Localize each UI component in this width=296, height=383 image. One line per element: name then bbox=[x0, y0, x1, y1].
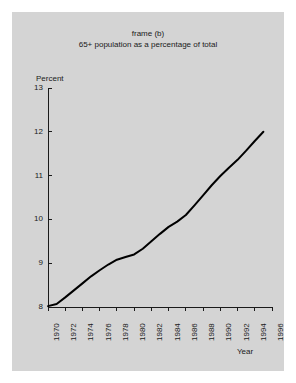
x-tick-label: 1990 bbox=[224, 323, 233, 341]
y-tick-label: 12 bbox=[27, 127, 43, 136]
chart-canvas bbox=[12, 12, 284, 371]
x-tick-label: 1996 bbox=[276, 323, 285, 341]
x-tick-label: 1976 bbox=[104, 323, 113, 341]
x-tick-label: 1980 bbox=[138, 323, 147, 341]
y-tick-label: 9 bbox=[27, 258, 43, 267]
y-tick-label: 8 bbox=[27, 302, 43, 311]
data-series bbox=[48, 132, 263, 306]
chart-figure: frame (b) 65+ population as a percentage… bbox=[12, 12, 284, 371]
x-tick-label: 1988 bbox=[207, 323, 216, 341]
y-tick-label: 11 bbox=[27, 171, 43, 180]
x-tick-label: 1984 bbox=[173, 323, 182, 341]
x-tick-label: 1986 bbox=[190, 323, 199, 341]
x-tick-label: 1972 bbox=[69, 323, 78, 341]
y-tick-label: 13 bbox=[27, 83, 43, 92]
x-tick-label: 1994 bbox=[259, 323, 268, 341]
axes bbox=[48, 88, 272, 311]
x-tick-label: 1982 bbox=[155, 323, 164, 341]
x-tick-label: 1992 bbox=[242, 323, 251, 341]
x-tick-label: 1970 bbox=[52, 323, 61, 341]
data-line bbox=[48, 132, 263, 306]
y-tick-label: 10 bbox=[27, 214, 43, 223]
x-tick-label: 1978 bbox=[121, 323, 130, 341]
plot-area bbox=[12, 12, 284, 371]
x-tick-label: 1974 bbox=[86, 323, 95, 341]
